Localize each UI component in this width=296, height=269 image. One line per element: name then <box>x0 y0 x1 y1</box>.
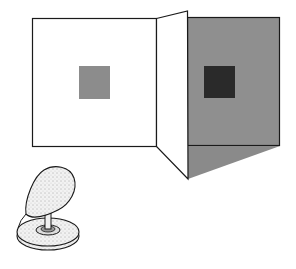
lit-gray-square <box>79 66 110 99</box>
right-shadow-panel <box>188 18 280 146</box>
hinge-panel <box>157 11 189 179</box>
lamp-icon <box>17 167 79 250</box>
cast-shadow <box>188 146 281 179</box>
left-lit-panel <box>33 19 157 147</box>
lightness-constancy-figure <box>0 0 296 269</box>
shadow-dark-square <box>204 66 235 98</box>
